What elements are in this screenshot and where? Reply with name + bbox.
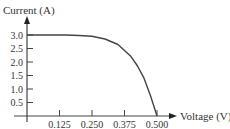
iv-curve-chart: 0.51.01.52.02.53.0 0.1250.2500.3750.500 … xyxy=(0,0,230,129)
y-axis-label: Current (A) xyxy=(3,4,55,17)
y-tick-label: 2.5 xyxy=(11,43,24,54)
y-tick-label: 0.5 xyxy=(11,97,24,108)
y-tick-label: 1.5 xyxy=(11,70,24,81)
y-tick-label: 1.0 xyxy=(11,84,24,95)
x-tick-label: 0.125 xyxy=(48,119,71,129)
y-tick-label: 3.0 xyxy=(11,30,24,41)
y-axis-arrow-icon xyxy=(24,16,30,24)
x-axis-arrow-icon xyxy=(169,113,177,119)
y-tick-label: 2.0 xyxy=(11,57,24,68)
x-ticks: 0.1250.2500.3750.500 xyxy=(48,110,168,129)
y-ticks: 0.51.01.52.02.53.0 xyxy=(11,30,34,109)
x-tick-label: 0.375 xyxy=(113,119,136,129)
data-line xyxy=(27,35,157,116)
x-tick-label: 0.250 xyxy=(81,119,104,129)
x-tick-label: 0.500 xyxy=(146,119,169,129)
x-axis-label: Voltage (V) xyxy=(180,110,230,123)
